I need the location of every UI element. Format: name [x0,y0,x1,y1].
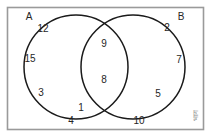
venn-element-8: 8 [101,75,107,85]
venn-element-10: 10 [133,116,144,126]
corner-watermark: भाग [191,110,200,121]
set-a-label: A [26,12,33,22]
venn-element-2: 2 [164,23,170,33]
venn-element-5: 5 [155,89,161,99]
venn-element-3: 3 [38,88,44,98]
venn-element-9: 9 [101,39,107,49]
venn-element-4: 4 [68,116,74,126]
venn-element-12: 12 [37,24,48,34]
venn-diagram-figure: 12153198275410 A B भाग [0,0,210,137]
venn-element-1: 1 [78,103,84,113]
venn-element-7: 7 [176,55,182,65]
venn-element-15: 15 [24,54,35,64]
set-b-label: B [178,12,185,22]
